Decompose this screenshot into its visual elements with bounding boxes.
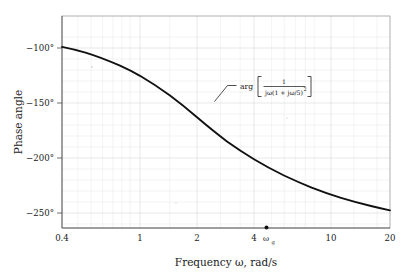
x-tick-label-omega-g: ω [263, 234, 269, 243]
x-tick-label-omega-g-subscript: g [272, 239, 276, 246]
phase-plot-svg: arg 1 jω(1 + jω/5) 2 −100° −150° −200° −… [0, 0, 416, 279]
y-axis-title: Phase angle [12, 90, 24, 154]
x-tick-labels: 0.4 1 2 4 ω g 10 20 [55, 233, 395, 246]
x-axis-title: Frequency ω, rad/s [175, 256, 277, 268]
x-tick-label-1: 1 [137, 233, 142, 243]
x-tick-label-2: 2 [194, 233, 199, 243]
left-bracket-icon [258, 77, 262, 97]
annotation-denominator: jω(1 + jω/5) [264, 89, 303, 97]
omega-g-axis-marker [265, 226, 269, 230]
y-tick-label-2: −200° [26, 153, 54, 163]
annotation-denominator-exponent: 2 [304, 86, 307, 92]
x-tick-label-0: 0.4 [55, 233, 69, 243]
y-tick-label-1: −150° [26, 98, 54, 108]
x-tick-label-5: 10 [326, 233, 337, 243]
y-tick-marks [57, 48, 62, 213]
x-tick-label-3: 4 [251, 233, 257, 243]
x-tick-label-6: 20 [385, 233, 396, 243]
annotation-numerator: 1 [282, 78, 286, 85]
transfer-function-annotation: arg 1 jω(1 + jω/5) 2 [240, 77, 311, 97]
y-tick-label-0: −100° [26, 43, 54, 53]
grid-major-horizontal [62, 48, 390, 213]
annotation-arg-label: arg [240, 82, 253, 91]
figure-canvas: arg 1 jω(1 + jω/5) 2 −100° −150° −200° −… [0, 0, 416, 279]
annotation-leader-line [215, 86, 237, 102]
grid-minor-horizontal [62, 37, 390, 224]
right-bracket-icon [308, 77, 312, 97]
phase-response-curve [62, 47, 390, 211]
y-tick-label-3: −250° [26, 208, 54, 218]
y-tick-labels: −100° −150° −200° −250° [26, 43, 54, 218]
